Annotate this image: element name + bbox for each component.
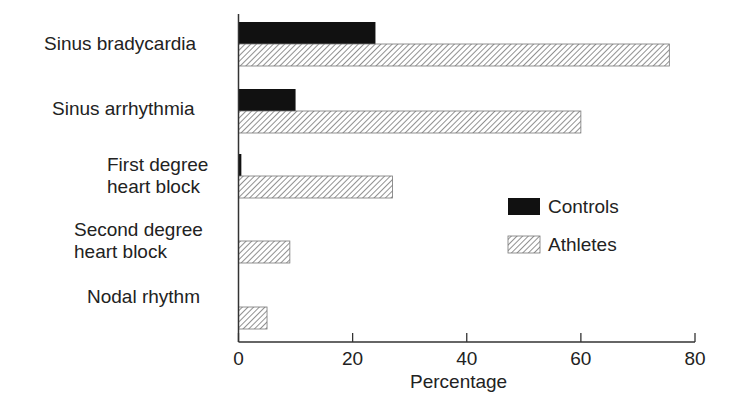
bar-athletes-0 [239,44,670,66]
bars-group [239,22,670,329]
category-label-second-degree-line2: heart block [74,241,167,263]
x-ticks: 020406080 [233,333,705,369]
category-label-first-degree-line1: First degree [107,154,208,176]
legend-label-athletes: Athletes [548,234,617,256]
bar-controls-1 [239,89,296,111]
x-tick-label: 60 [570,348,591,369]
bar-athletes-1 [239,111,581,133]
legend-label-controls: Controls [548,196,619,218]
x-tick-label: 80 [684,348,705,369]
x-tick-label: 20 [342,348,363,369]
category-label-first-degree-line2: heart block [107,176,200,198]
chart-plot: 020406080 [0,0,740,406]
legend-swatch-athletes [508,236,540,253]
x-tick-label: 0 [233,348,244,369]
category-label-nodal-rhythm: Nodal rhythm [87,286,200,308]
bar-athletes-4 [239,307,268,329]
category-label-sinus-arrhythmia: Sinus arrhythmia [52,98,195,120]
x-tick-label: 40 [456,348,477,369]
legend-swatch-controls [508,198,540,215]
bar-controls-0 [239,22,376,44]
category-label-sinus-bradycardia: Sinus bradycardia [44,33,196,55]
bar-athletes-2 [239,176,393,198]
bar-athletes-3 [239,241,290,263]
x-axis-title: Percentage [410,371,507,393]
category-label-second-degree-line1: Second degree [74,219,203,241]
